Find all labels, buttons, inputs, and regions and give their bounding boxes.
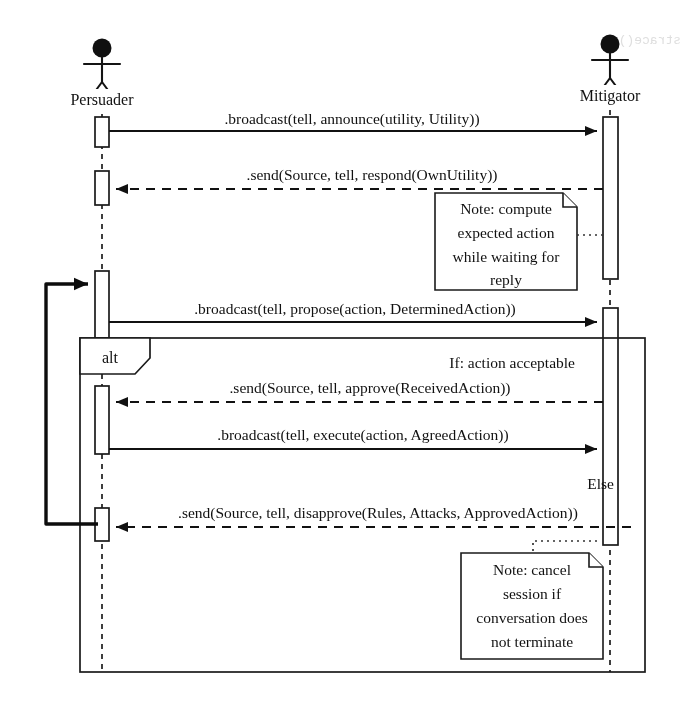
message-5-label: .broadcast(tell, execute(action, AgreedA…	[217, 426, 508, 444]
activation-mitigator-2	[603, 308, 618, 545]
activation-persuader-2	[95, 171, 109, 205]
message-2-label: .send(Source, tell, respond(OwnUtility))	[247, 166, 498, 184]
note-cancel-session[interactable]: Note: cancel session if conversation doe…	[461, 541, 603, 659]
loopback-arrow	[46, 284, 98, 524]
note-cancel-line-3: conversation does	[476, 609, 587, 626]
activation-persuader-3	[95, 271, 109, 338]
guard-if-label: If: action acceptable	[449, 354, 575, 371]
message-1-broadcast-announce[interactable]: .broadcast(tell, announce(utility, Utili…	[109, 110, 597, 131]
sequence-diagram-canvas: strace()	[0, 0, 681, 709]
note-compute-line-3: while waiting for	[453, 248, 561, 265]
note-compute-line-2: expected action	[458, 224, 555, 241]
actor-label-mitigator: Mitigator	[580, 87, 641, 105]
activation-persuader-1	[95, 117, 109, 147]
loopback-path	[46, 284, 98, 524]
message-6-send-disapprove[interactable]: .send(Source, tell, disapprove(Rules, At…	[116, 504, 631, 527]
message-4-label: .send(Source, tell, approve(ReceivedActi…	[229, 379, 510, 397]
activation-mitigator-1	[603, 117, 618, 279]
activation-persuader-4	[95, 386, 109, 454]
guard-else-label: Else	[587, 475, 614, 492]
message-2-send-respond[interactable]: .send(Source, tell, respond(OwnUtility))	[116, 166, 603, 189]
scan-bleedthrough: strace()	[10, 33, 681, 83]
message-4-send-approve[interactable]: .send(Source, tell, approve(ReceivedActi…	[116, 379, 603, 402]
note-cancel-foldcorner	[589, 553, 603, 567]
sequence-diagram-root: strace()	[0, 0, 681, 709]
note-cancel-line-1: Note: cancel	[493, 561, 571, 578]
actor-labels: Persuader Mitigator	[56, 85, 654, 109]
note-compute-expected-action[interactable]: Note: compute expected action while wait…	[435, 193, 603, 290]
note-cancel-connector	[533, 541, 601, 551]
svg-text:strace(): strace()	[619, 33, 681, 48]
note-compute-line-4: reply	[490, 271, 522, 288]
alt-operator-label: alt	[102, 349, 119, 366]
message-3-label: .broadcast(tell, propose(action, Determi…	[194, 300, 516, 318]
message-1-label: .broadcast(tell, announce(utility, Utili…	[224, 110, 479, 128]
note-compute-line-1: Note: compute	[460, 200, 552, 217]
actor-label-persuader: Persuader	[70, 91, 134, 108]
message-5-broadcast-execute[interactable]: .broadcast(tell, execute(action, AgreedA…	[109, 426, 597, 449]
message-3-broadcast-propose[interactable]: .broadcast(tell, propose(action, Determi…	[109, 300, 597, 322]
message-6-label: .send(Source, tell, disapprove(Rules, At…	[178, 504, 578, 522]
note-cancel-line-4: not terminate	[491, 633, 573, 650]
note-cancel-line-2: session if	[503, 585, 562, 602]
